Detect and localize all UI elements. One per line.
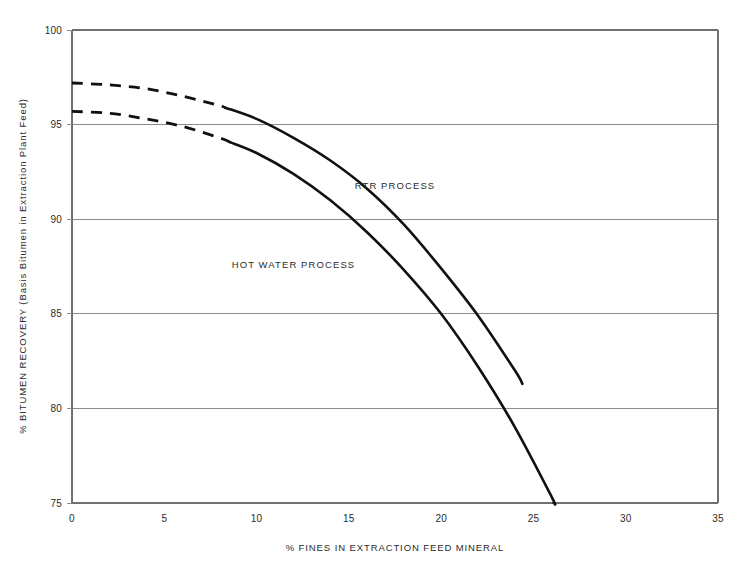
data-series [72,83,555,505]
x-tick-label-15: 15 [343,513,355,524]
x-tick-label-30: 30 [620,513,632,524]
plot-frame [72,30,718,503]
y-axis-title: % BITUMEN RECOVERY (Basis Bitumen in Ext… [17,98,28,434]
series-dashed-segment-0 [72,83,225,108]
y-tick-label-90: 90 [50,214,62,225]
y-tick-label-80: 80 [50,403,62,414]
y-tick-label-85: 85 [50,308,62,319]
series-line-0 [225,108,522,384]
x-tick-label-5: 5 [161,513,167,524]
series-line-1 [231,142,556,504]
x-tick-label-20: 20 [435,513,447,524]
x-tick-label-25: 25 [528,513,540,524]
x-axis-title: % FINES IN EXTRACTION FEED MINERAL [286,542,505,553]
series-dashed-segment-1 [72,111,231,142]
y-tick-labels: 7580859095100 [45,25,72,509]
x-tick-label-35: 35 [712,513,724,524]
x-tick-labels: 05101520253035 [69,513,724,524]
y-tick-label-75: 75 [50,498,62,509]
series-label-0: RTR PROCESS [355,180,436,191]
x-tick-label-0: 0 [69,513,75,524]
series-label-1: HOT WATER PROCESS [232,259,356,270]
grid-lines [72,125,718,409]
x-tick-label-10: 10 [251,513,263,524]
chart-container: 7580859095100 05101520253035 RTR PROCESS… [0,0,747,567]
y-tick-label-100: 100 [45,25,63,36]
y-tick-label-95: 95 [50,119,62,130]
line-chart: 7580859095100 05101520253035 RTR PROCESS… [0,0,747,567]
